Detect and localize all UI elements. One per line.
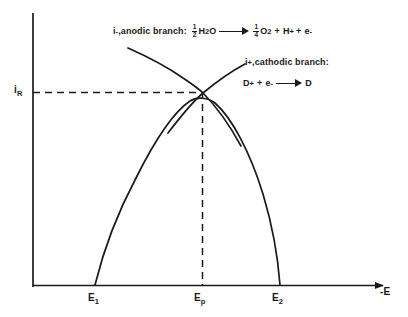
x-axis-title: -E [380,286,390,297]
cathodic-reaction-arrow-icon [276,79,302,88]
x-tick-label-ep: Ep [194,292,205,306]
anodic-reactant-tail: O [209,26,216,36]
cathodic-product-d: D [305,78,312,88]
x-tick-label-e2: E2 [272,292,283,306]
anodic-product-denominator: 4 [253,31,259,39]
anodic-branch-curve [128,48,241,146]
cathodic-electron-charge: - [271,79,274,88]
figure-canvas: iR i-,anodic branch:12H2O14O2+H++e- i+,c… [0,0,408,317]
anodic-plus-first: + [275,26,280,36]
anodic-plus-second: + [296,26,301,36]
plot-svg [0,0,408,317]
cathodic-plus: + [257,78,262,88]
anodic-branch-annotation: i-,anodic branch:12H2O14O2+H++e- [113,24,312,38]
anodic-reactant-fraction: 12 [192,24,198,38]
anodic-hydrogen-charge: + [290,27,294,36]
anodic-reactant-symbol: H [198,26,205,36]
cathodic-reaction-equation: D++e-D [243,78,312,88]
cathodic-branch-text: ,cathodic branch: [252,57,329,67]
cathodic-d-charge: + [250,79,254,88]
e2-symbol: E [272,292,279,303]
e1-symbol: E [88,292,95,303]
anodic-reaction-arrow-icon [219,27,249,36]
anodic-species-hydrogen: H [283,26,290,36]
cathodic-reactant-d: D [243,78,250,88]
e2-subscript: 2 [279,297,283,306]
y-tick-label-ir: iR [14,84,22,98]
anodic-product-subscript: 2 [267,27,271,36]
ep-symbol: E [194,292,201,303]
envelope-peak-curve [95,98,280,285]
ep-subscript: p [201,297,206,306]
anodic-reactant-denominator: 2 [192,31,198,39]
anodic-electron-charge: - [309,27,312,36]
cathodic-branch-annotation: i+,cathodic branch: [245,57,329,67]
anodic-branch-text: ,anodic branch: [118,26,187,36]
anodic-product-symbol: O [260,26,267,36]
anodic-product-fraction: 14 [253,24,259,38]
ir-subscript: R [17,89,23,98]
x-tick-label-e1: E1 [88,292,99,306]
e1-subscript: 1 [95,297,99,306]
